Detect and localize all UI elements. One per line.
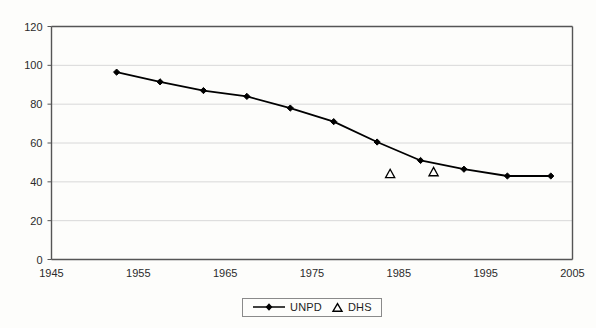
y-tick-label: 120	[24, 21, 42, 33]
data-point-marker-diamond	[114, 69, 120, 75]
y-tick-label: 100	[24, 59, 42, 71]
y-tick-label: 40	[30, 176, 42, 188]
x-tick-label: 1965	[213, 267, 237, 279]
x-tick-label: 1975	[300, 267, 324, 279]
y-axis-tick-labels: 020406080100120	[24, 21, 42, 266]
y-tick-label: 60	[30, 137, 42, 149]
data-point-marker-diamond	[461, 166, 467, 172]
y-tick-label: 20	[30, 215, 42, 227]
data-point-marker-diamond	[157, 79, 163, 85]
series-unpd	[114, 69, 554, 179]
data-point-marker-diamond	[417, 157, 423, 163]
data-point-marker-diamond	[548, 173, 554, 179]
chart-container: 020406080100120 194519551965197519851995…	[0, 0, 596, 328]
data-point-marker-triangle	[429, 167, 438, 175]
legend-label-unpd: UNPD	[290, 301, 322, 313]
data-series-layer	[114, 69, 554, 179]
x-tick-label: 2005	[560, 267, 584, 279]
data-point-marker-triangle	[386, 169, 395, 177]
series-dhs	[386, 167, 439, 177]
legend-item-unpd: UNPD	[252, 301, 322, 313]
legend-item-dhs: DHS	[331, 301, 372, 313]
y-tick-label: 0	[36, 254, 42, 266]
chart-canvas: 020406080100120 194519551965197519851995…	[0, 0, 596, 328]
data-point-marker-diamond	[244, 93, 250, 99]
legend-hollow-triangle-marker-icon	[331, 302, 344, 313]
legend-label-dhs: DHS	[348, 301, 372, 313]
y-tick-label: 80	[30, 98, 42, 110]
legend-line-with-diamond-marker-icon	[252, 302, 286, 312]
x-tick-label: 1945	[39, 267, 63, 279]
data-point-marker-diamond	[374, 139, 380, 145]
gridlines-group	[52, 27, 573, 260]
x-tick-label: 1995	[473, 267, 497, 279]
x-axis-tick-labels: 1945195519651975198519952005	[39, 267, 584, 279]
data-point-marker-diamond	[504, 173, 510, 179]
x-tick-label: 1985	[387, 267, 411, 279]
data-point-marker-diamond	[331, 119, 337, 125]
chart-legend: UNPD DHS	[242, 298, 382, 317]
data-point-marker-diamond	[287, 105, 293, 111]
data-point-marker-diamond	[200, 87, 206, 93]
x-tick-label: 1955	[126, 267, 150, 279]
